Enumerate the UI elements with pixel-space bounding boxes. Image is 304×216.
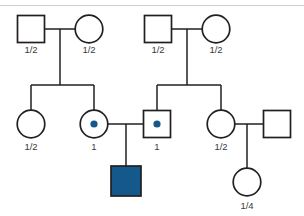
individual-III-2[interactable]: 1/4	[233, 168, 261, 211]
genotype-label-II-2: 1	[91, 141, 96, 152]
genotype-label-I-2: 1/2	[82, 44, 95, 55]
circle-symbol-female-unaffected[interactable]	[202, 15, 230, 43]
individual-II-1[interactable]: 1/2	[17, 110, 45, 152]
circle-symbol-female-unaffected[interactable]	[17, 110, 45, 138]
individual-II-5[interactable]	[264, 111, 291, 138]
individual-I-2[interactable]: 1/2	[75, 15, 103, 55]
individual-I-4[interactable]: 1/2	[202, 15, 230, 55]
individual-I-1[interactable]: 1/2	[18, 16, 45, 56]
individual-III-1[interactable]	[111, 166, 141, 196]
carrier-dot-icon	[90, 120, 97, 127]
square-symbol-male-unaffected[interactable]	[264, 111, 291, 138]
genotype-label-I-1: 1/2	[24, 44, 37, 55]
circle-symbol-female-unaffected[interactable]	[207, 110, 235, 138]
carrier-dot-icon	[153, 120, 160, 127]
individual-II-2[interactable]: 1	[80, 110, 108, 152]
genotype-label-I-3: 1/2	[151, 44, 164, 55]
individual-II-3[interactable]: 1	[144, 111, 171, 153]
individual-II-4[interactable]: 1/2	[207, 110, 235, 152]
generation-I: 1/2 1/2 1/2 1/2	[18, 15, 230, 55]
pedigree-chart: 1/2 1/2 1/2 1/2 1/2	[0, 0, 304, 216]
connector-lines	[31, 29, 263, 168]
genotype-label-II-1: 1/2	[24, 141, 37, 152]
generation-III: 1/4	[111, 166, 261, 211]
genotype-label-II-4: 1/2	[214, 141, 227, 152]
circle-symbol-female-unaffected[interactable]	[233, 168, 261, 196]
square-symbol-male-unaffected[interactable]	[18, 16, 45, 43]
individual-I-3[interactable]: 1/2	[145, 16, 172, 56]
generation-II: 1/2 1 1 1/2	[17, 110, 290, 152]
square-symbol-male-unaffected[interactable]	[145, 16, 172, 43]
square-symbol-male-affected[interactable]	[111, 166, 141, 196]
circle-symbol-female-unaffected[interactable]	[75, 15, 103, 43]
genotype-label-III-2: 1/4	[240, 200, 253, 211]
genotype-label-I-4: 1/2	[209, 44, 222, 55]
genotype-label-II-3: 1	[154, 141, 159, 152]
